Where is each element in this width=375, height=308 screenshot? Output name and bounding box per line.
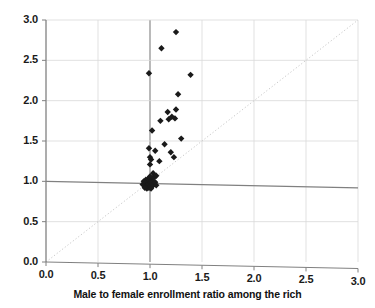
data-point-marker — [156, 158, 162, 164]
data-point-marker — [168, 149, 174, 155]
data-point-marker — [146, 70, 152, 76]
y-tick-label: 0.5 — [4, 215, 38, 227]
data-point-marker — [146, 145, 152, 151]
data-point-marker — [173, 29, 179, 35]
data-point-marker — [147, 161, 153, 167]
x-tick-label: 2.5 — [289, 273, 323, 285]
data-point-marker — [175, 91, 181, 97]
data-point-marker — [173, 106, 179, 112]
x-tick-label: 1.0 — [133, 270, 167, 282]
data-point-marker — [157, 118, 163, 124]
axis-lines — [42, 20, 358, 273]
x-axis-title: Male to female enrollment ratio among th… — [0, 288, 375, 300]
data-point-marker — [164, 109, 170, 115]
data-point-marker — [187, 72, 193, 78]
y-tick-label: 1.0 — [4, 174, 38, 186]
x-tick-label: 0.0 — [29, 268, 63, 280]
y-tick-label: 0.0 — [4, 255, 38, 267]
data-point-marker — [158, 45, 164, 51]
plot-canvas — [0, 0, 375, 308]
x-tick-label: 1.5 — [185, 271, 219, 283]
data-point-marker — [171, 154, 177, 160]
data-points — [140, 29, 194, 192]
x-tick-label: 0.5 — [81, 269, 115, 281]
y-tick-label: 2.0 — [4, 94, 38, 106]
scatter-plot-figure: 0.00.51.01.52.02.53.0 0.00.51.01.52.02.5… — [0, 0, 375, 308]
y-tick-label: 1.5 — [4, 134, 38, 146]
y-tick-label: 2.5 — [4, 53, 38, 65]
data-point-marker — [152, 147, 158, 153]
data-point-marker — [161, 141, 167, 147]
y-tick-label: 3.0 — [4, 13, 38, 25]
x-tick-label: 2.0 — [237, 272, 271, 284]
x-tick-label: 3.0 — [341, 275, 375, 287]
